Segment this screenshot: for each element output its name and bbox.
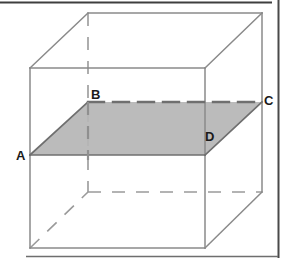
shaded-section-abcd (30, 102, 262, 155)
vertex-label-d: D (205, 130, 214, 143)
hidden-bottom-left-diagonal-edge (30, 192, 88, 248)
vertex-label-a: A (16, 149, 25, 162)
cube-cross-section-svg (0, 0, 291, 261)
vertex-label-c: C (264, 94, 273, 107)
top-right-diagonal-edge (205, 13, 262, 68)
top-left-diagonal-edge (30, 13, 88, 68)
bottom-right-diagonal-edge (205, 192, 262, 248)
vertex-label-b: B (91, 88, 100, 101)
geometry-figure: A B C D (0, 0, 291, 261)
